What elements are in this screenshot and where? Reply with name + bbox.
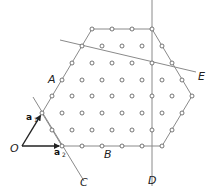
cut-lines <box>33 0 196 186</box>
lattice-point <box>180 111 184 115</box>
lattice-point <box>70 94 74 98</box>
lattice-point <box>130 128 134 132</box>
lattice-point <box>120 111 124 115</box>
lattice-points <box>40 27 194 148</box>
label-line-a: A <box>47 73 56 86</box>
lattice-point <box>160 44 164 48</box>
label-line-b: B <box>104 148 112 161</box>
hexagon-outline <box>42 29 192 146</box>
label-vector-a1: a <box>26 112 32 122</box>
lattice-point <box>170 61 174 65</box>
label-vector-a2: a <box>54 147 60 157</box>
lattice-point <box>180 78 184 82</box>
lattice-point <box>160 144 164 148</box>
lattice-point <box>120 44 124 48</box>
lattice-point <box>150 61 154 65</box>
lattice-point <box>80 44 84 48</box>
lattice-point <box>130 27 134 31</box>
label-vector-a2-subscript: 2 <box>62 151 66 158</box>
lattice-point <box>140 111 144 115</box>
lattice-point <box>140 144 144 148</box>
lattice-point <box>110 27 114 31</box>
lattice-point <box>60 144 64 148</box>
lattice-point <box>150 128 154 132</box>
lattice-point <box>120 144 124 148</box>
label-origin: O <box>10 142 19 155</box>
lattice-point <box>50 128 54 132</box>
lattice-figure: O A B C D E a 1 a 2 <box>0 0 215 195</box>
label-vector-a1-subscript: 1 <box>34 116 38 123</box>
lattice-point <box>190 94 194 98</box>
lattice-point <box>130 94 134 98</box>
lattice-point <box>160 111 164 115</box>
lattice-point <box>80 144 84 148</box>
lattice-point <box>80 111 84 115</box>
lattice-point <box>100 111 104 115</box>
lattice-point <box>60 111 64 115</box>
lattice-diagram: O A B C D E a 1 a 2 <box>0 0 215 195</box>
lattice-point <box>120 78 124 82</box>
lattice-point <box>110 94 114 98</box>
label-line-c: C <box>80 176 88 189</box>
lattice-point <box>130 61 134 65</box>
label-line-e: E <box>198 70 205 83</box>
lattice-point <box>90 27 94 31</box>
label-line-d: D <box>148 174 156 187</box>
lattice-point <box>60 78 64 82</box>
lattice-point <box>90 94 94 98</box>
lattice-point <box>90 128 94 132</box>
lattice-point <box>100 78 104 82</box>
lattice-point <box>170 128 174 132</box>
hexagon-boundary <box>42 29 192 146</box>
lattice-point <box>70 61 74 65</box>
lattice-point <box>140 44 144 48</box>
lattice-point <box>50 94 54 98</box>
lattice-point <box>40 111 44 115</box>
lattice-point <box>140 78 144 82</box>
lattice-point <box>110 61 114 65</box>
lattice-point <box>160 78 164 82</box>
lattice-point <box>100 44 104 48</box>
lattice-point <box>150 94 154 98</box>
lattice-point <box>70 128 74 132</box>
lattice-point <box>80 78 84 82</box>
lattice-point <box>150 27 154 31</box>
lattice-point <box>110 128 114 132</box>
lattice-point <box>170 94 174 98</box>
lattice-point <box>90 61 94 65</box>
line-c <box>33 97 84 181</box>
